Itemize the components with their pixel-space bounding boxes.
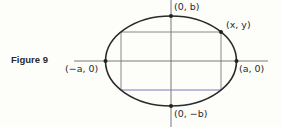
ellipse-figure: Figure 9 (−a, 0) (a, 0) (0, b) (0, −b) (… <box>0 0 282 127</box>
figure-caption: Figure 9 <box>11 54 48 65</box>
left-vertex-label: (−a, 0) <box>65 64 98 74</box>
left-vertex-dot <box>104 59 108 63</box>
bottom-vertex-label: (0, −b) <box>174 109 208 119</box>
bottom-vertex-dot <box>169 104 173 108</box>
right-vertex-dot <box>235 59 239 63</box>
top-vertex-dot <box>169 14 173 18</box>
point-xy-dot <box>219 30 223 34</box>
right-vertex-label: (a, 0) <box>239 64 264 74</box>
point-xy-label: (x, y) <box>226 20 251 30</box>
top-vertex-label: (0, b) <box>174 2 200 12</box>
